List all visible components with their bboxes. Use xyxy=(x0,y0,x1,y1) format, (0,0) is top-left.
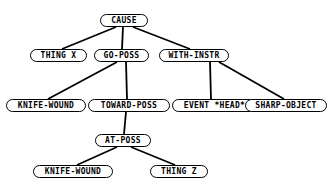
diagram-canvas: CAUSETHING XGO-POSSWITH-INSTRKNIFE-WOUND… xyxy=(0,0,329,191)
node-label-toward-poss: TOWARD-POSS xyxy=(101,101,157,109)
node-knife-wound-1[interactable]: KNIFE-WOUND xyxy=(6,99,86,112)
node-at-poss[interactable]: AT-POSS xyxy=(95,134,151,147)
node-thing-z[interactable]: THING Z xyxy=(150,165,208,178)
edge-toward-poss-at-poss xyxy=(124,112,126,134)
node-sharp-object[interactable]: SHARP-OBJECT xyxy=(245,99,327,112)
edge-layer xyxy=(0,0,329,191)
node-label-at-poss: AT-POSS xyxy=(105,136,141,144)
edge-at-poss-thing-z xyxy=(131,147,175,165)
node-label-sharp-object: SHARP-OBJECT xyxy=(255,101,316,109)
edge-cause-thing-x xyxy=(62,27,116,49)
edge-cause-with-instr xyxy=(133,27,190,49)
node-label-thing-x: THING X xyxy=(41,51,77,59)
node-label-cause: CAUSE xyxy=(111,16,137,24)
edge-with-instr-sharp-object xyxy=(219,62,284,99)
node-label-thing-z: THING Z xyxy=(161,167,197,175)
node-knife-wound-2[interactable]: KNIFE-WOUND xyxy=(33,165,113,178)
edge-at-poss-knife-wound xyxy=(77,147,117,165)
node-label-knife-wound-2: KNIFE-WOUND xyxy=(45,167,101,175)
node-toward-poss[interactable]: TOWARD-POSS xyxy=(88,99,170,112)
node-label-event-head: EVENT *HEAD* xyxy=(184,101,245,109)
node-label-go-poss: GO-POSS xyxy=(104,51,140,59)
node-thing-x[interactable]: THING X xyxy=(30,49,87,62)
node-with-instr[interactable]: WITH-INSTR xyxy=(159,49,229,62)
node-cause[interactable]: CAUSE xyxy=(100,14,148,27)
edge-go-poss-knife-wound xyxy=(48,62,117,99)
node-go-poss[interactable]: GO-POSS xyxy=(94,49,149,62)
edge-with-instr-event-head xyxy=(210,62,211,99)
edge-cause-go-poss xyxy=(122,27,123,49)
node-label-with-instr: WITH-INSTR xyxy=(168,51,219,59)
edge-go-poss-toward-poss xyxy=(126,62,127,99)
node-label-knife-wound-1: KNIFE-WOUND xyxy=(18,101,74,109)
